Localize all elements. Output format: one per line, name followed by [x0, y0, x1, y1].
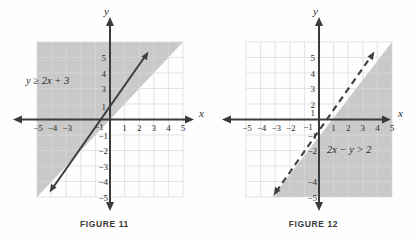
y-tick-label: −3: [98, 162, 108, 172]
figure-12-graph: x y 2x − y > 2 −5 −4 −3 −2 −1 1 2 3 4 5 …: [209, 0, 418, 215]
inequality-label-11: y ≥ 2x + 3: [25, 75, 69, 86]
y-tick-label: −5: [98, 193, 108, 203]
y-tick-label: −5: [307, 193, 317, 203]
x-tick-label: −2: [286, 123, 296, 133]
figure-11-caption: FIGURE 11: [0, 219, 209, 229]
y-axis-label-12: y: [312, 5, 318, 17]
y-tick-label: −1: [98, 131, 108, 141]
y-axis-label-11: y: [103, 5, 109, 17]
y-tick-label: 3: [311, 84, 316, 94]
x-tick-label: 3: [361, 123, 366, 133]
x-tick-label: 4: [166, 123, 171, 133]
y-tick-label: 4: [311, 69, 316, 79]
y-tick-label: −1: [307, 131, 317, 141]
y-tick-label: −4: [307, 177, 317, 187]
x-tick-label: 1: [122, 123, 127, 133]
x-tick-label: 3: [152, 123, 157, 133]
x-tick-label: −4: [257, 123, 267, 133]
figure-12-caption: FIGURE 12: [209, 219, 418, 229]
x-tick-label: −3: [62, 123, 72, 133]
y-tick-label: 5: [311, 53, 316, 63]
y-tick-label: −2: [98, 146, 108, 156]
x-tick-label: −5: [242, 123, 252, 133]
y-tick-label: 1: [311, 108, 316, 118]
y-tick-label: 5: [102, 53, 107, 63]
figure-pair-container: x y y ≥ 2x + 3 −5 −4 −3 −1 1 2 3 4 5 5 4…: [0, 0, 418, 244]
y-tick-label: 4: [102, 69, 107, 79]
y-tick-label: 3: [102, 84, 107, 94]
x-tick-label: −3: [271, 123, 281, 133]
inequality-label-12: 2x − y > 2: [327, 144, 372, 155]
x-tick-label: 1: [331, 123, 336, 133]
x-tick-label: 2: [346, 123, 351, 133]
x-axis-label-11: x: [198, 107, 204, 119]
figure-12-panel: x y 2x − y > 2 −5 −4 −3 −2 −1 1 2 3 4 5 …: [209, 0, 418, 244]
y-tick-label: 1: [102, 102, 107, 112]
x-axis-label-12: x: [397, 107, 403, 119]
x-tick-label: −4: [48, 123, 58, 133]
figure-11-panel: x y y ≥ 2x + 3 −5 −4 −3 −1 1 2 3 4 5 5 4…: [0, 0, 209, 244]
x-tick-label: 4: [375, 123, 380, 133]
x-tick-label: −5: [33, 123, 43, 133]
x-tick-label: 5: [181, 123, 186, 133]
y-tick-label: −4: [98, 177, 108, 187]
x-tick-label: 2: [137, 123, 142, 133]
x-tick-label: 5: [390, 123, 395, 133]
y-tick-label: −2: [307, 146, 317, 156]
figure-11-graph: x y y ≥ 2x + 3 −5 −4 −3 −1 1 2 3 4 5 5 4…: [0, 0, 209, 215]
